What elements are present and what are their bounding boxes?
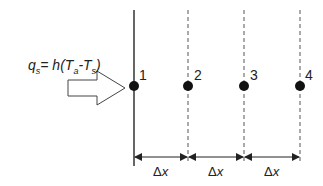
spacing-label-3: Δx [264,164,279,179]
node-dot-1 [129,81,139,91]
node-label-3: 3 [250,68,258,82]
node-label-1: 1 [139,68,147,82]
spacing-label-1: Δx [153,164,168,179]
spacing-label-2: Δx [208,164,223,179]
heat-flux-arrow-icon [68,71,125,105]
node-diagram [0,0,323,186]
node-dot-3 [239,81,249,91]
node-label-4: 4 [305,68,313,82]
heat-flux-equation: qs= h(Ta-Ts) [28,57,101,76]
node-dot-2 [183,81,193,91]
node-label-2: 2 [194,68,202,82]
node-dot-4 [295,81,305,91]
